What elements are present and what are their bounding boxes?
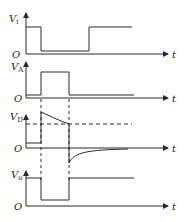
va-y-label: VA: [11, 61, 24, 74]
panel-vi: [26, 13, 168, 54]
panel-vd: [26, 112, 168, 163]
va-x-label: t: [172, 93, 177, 104]
vo-x-label: t: [172, 201, 177, 212]
vo-y-label: Vo: [11, 169, 22, 182]
panel-vo: [26, 171, 168, 206]
vd-origin-label: O: [14, 143, 22, 154]
vi-x-label: t: [172, 49, 177, 60]
va-waveform: [26, 72, 134, 95]
vd-x-label: t: [172, 143, 177, 154]
panel-va: [26, 62, 168, 98]
vd-waveform-positive: [26, 112, 69, 163]
vi-waveform: [26, 27, 132, 51]
vd-waveform-negative-decay: [69, 149, 128, 163]
vd-y-label: VD: [10, 111, 23, 124]
timing-diagram: Vi O t VA O t VD O t Vo O t: [0, 0, 186, 222]
vo-origin-label: O: [14, 201, 22, 212]
va-origin-label: O: [14, 93, 22, 104]
vo-waveform: [26, 178, 134, 200]
vi-origin-label: O: [12, 49, 20, 60]
vi-y-label: Vi: [9, 13, 19, 26]
